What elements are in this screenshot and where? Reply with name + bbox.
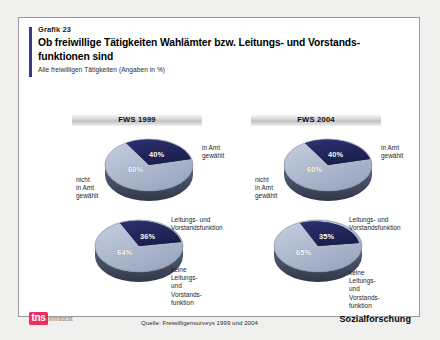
pie-value-dark: 35%	[319, 232, 334, 241]
chart-card: Grafik 23 Ob freiwillige Tätigkeiten Wah…	[18, 17, 420, 317]
pie-label-in-amt-gewaehlt: in Amt gewählt	[381, 144, 403, 160]
pie-label-nicht-in-amt-gewaehlt: nicht in Amt gewählt	[76, 176, 98, 201]
logo-infratest-wordmark: infratest	[48, 315, 72, 322]
pie-graphic	[280, 130, 376, 204]
pie-value-dark: 40%	[328, 150, 343, 159]
card-header: Grafik 23 Ob freiwillige Tätigkeiten Wah…	[29, 25, 411, 73]
brand-sozialforschung: Sozialforschung	[339, 314, 411, 324]
card-footer: tns infratest Quelle: Freiwilligensurvey…	[19, 274, 421, 318]
pie-label-leitungsfunktion: Leitungs- und Vorstandsfunktion	[349, 216, 401, 232]
pie-value-light: 64%	[117, 248, 132, 257]
pie-label-nicht-in-amt-gewaehlt: nicht in Amt gewählt	[255, 176, 277, 201]
header-text-group: Grafik 23 Ob freiwillige Tätigkeiten Wah…	[38, 25, 411, 73]
pie-value-dark: 36%	[140, 232, 155, 241]
graphic-number: Grafik 23	[38, 25, 411, 34]
column-header-fws-1999: FWS 1999	[72, 114, 202, 126]
pie-value-light: 60%	[128, 165, 143, 174]
pie-label-in-amt-gewaehlt: in Amt gewählt	[202, 144, 224, 160]
pie-value-light: 60%	[307, 165, 322, 174]
page-subtitle: Alle freiwilligen Tätigkeiten (Angaben i…	[38, 66, 411, 73]
pie-graphic	[101, 130, 197, 204]
pie-value-light: 65%	[296, 248, 311, 257]
column-header-fws-2004: FWS 2004	[251, 114, 381, 126]
source-note: Quelle: Freiwilligensurveys 1999 und 200…	[141, 319, 258, 326]
pie-label-leitungsfunktion: Leitungs- und Vorstandsfunktion	[171, 216, 223, 232]
logo-tns-mark: tns	[29, 312, 48, 325]
tns-infratest-logo: tns infratest	[29, 312, 73, 325]
pie-value-dark: 40%	[149, 150, 164, 159]
page-title: Ob freiwillige Tätigkeiten Wahlämter bzw…	[38, 36, 410, 63]
accent-bar	[29, 27, 32, 77]
